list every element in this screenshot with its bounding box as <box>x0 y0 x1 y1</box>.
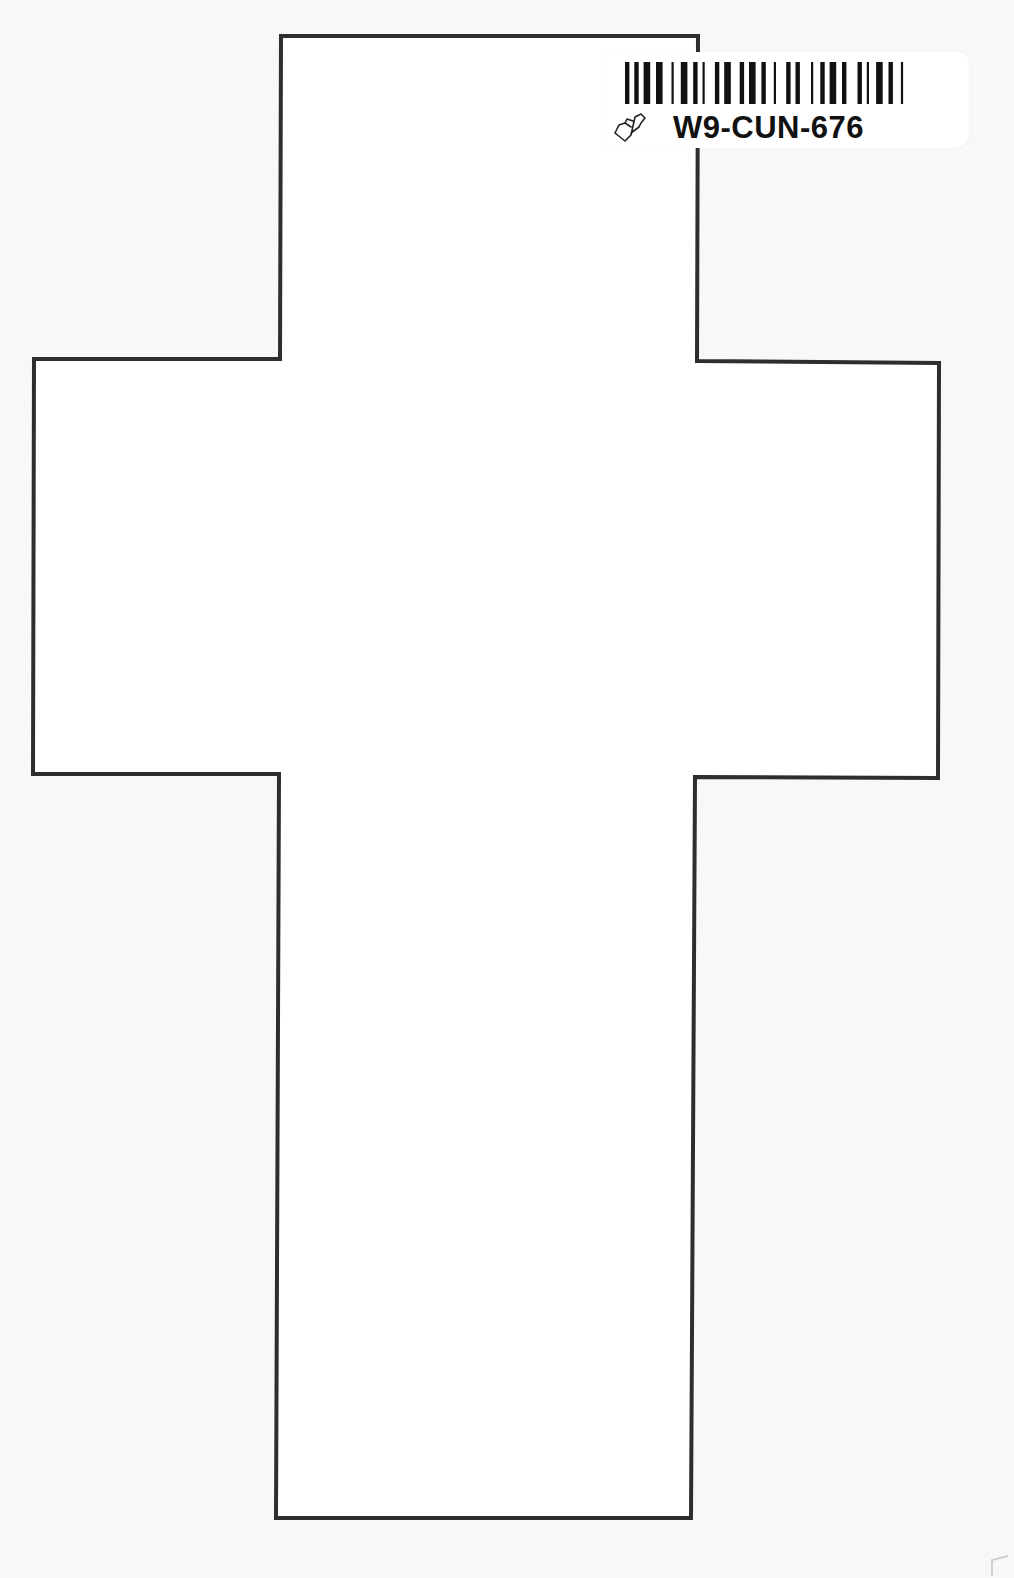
page: W9-CUN-676 <box>0 0 1014 1578</box>
cross-outline <box>0 0 1014 1578</box>
heart-book-icon <box>611 111 651 145</box>
barcode-icon <box>625 62 943 104</box>
barcode-label: W9-CUN-676 <box>603 52 969 148</box>
corner-mark-icon <box>990 1552 1010 1576</box>
barcode-number: W9-CUN-676 <box>673 110 864 146</box>
barcode-label-row: W9-CUN-676 <box>611 110 864 146</box>
